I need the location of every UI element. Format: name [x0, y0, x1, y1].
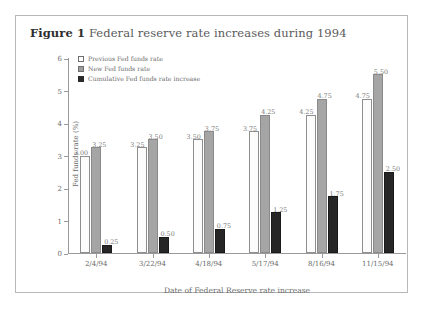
x-axis-tick-label: 5/17/94 — [252, 260, 279, 268]
bar-new-rate: 3.25 — [91, 147, 101, 253]
bar-previous-rate: 3.75 — [249, 131, 259, 253]
bar-group: 3.003.250.25 — [80, 58, 112, 253]
bar-value-label: 3.50 — [149, 133, 163, 141]
x-axis-tick-label: 3/22/94 — [139, 260, 166, 268]
y-axis-tick-label: 0 — [58, 250, 62, 258]
x-axis-tick-label: 8/16/94 — [308, 260, 335, 268]
bar-previous-rate: 3.50 — [193, 139, 203, 253]
y-axis-tick — [64, 156, 68, 157]
y-axis-tick-label: 5 — [58, 88, 62, 96]
figure-label: Figure 1 — [30, 26, 85, 40]
bar-cumulative-increase: 1.75 — [328, 196, 338, 253]
x-axis-tick-label: 2/4/94 — [85, 260, 108, 268]
bar-previous-rate: 4.75 — [362, 99, 372, 253]
bar-value-label: 3.00 — [74, 149, 88, 157]
bar-group: 3.503.750.75 — [193, 58, 225, 253]
bar-value-label: 3.25 — [130, 141, 144, 149]
x-axis-tick — [322, 254, 323, 258]
bar-cumulative-increase: 1.25 — [271, 212, 281, 253]
bar-new-rate: 3.75 — [204, 131, 214, 253]
x-axis-tick-label: 4/18/94 — [195, 260, 222, 268]
y-axis-tick-label: 6 — [58, 55, 62, 63]
bar-value-label: 2.50 — [386, 165, 400, 173]
bar-previous-rate: 3.00 — [80, 156, 90, 254]
x-axis-tick-labels: 2/4/943/22/944/18/945/17/948/16/9411/15/… — [68, 260, 406, 272]
y-axis-tick — [64, 189, 68, 190]
bar-cumulative-increase: 0.50 — [159, 237, 169, 253]
x-axis-tick — [378, 254, 379, 258]
bar-value-label: 0.50 — [161, 230, 175, 238]
figure-caption: Figure 1 Federal reserve rate increases … — [30, 26, 347, 40]
bar-value-label: 4.25 — [261, 108, 275, 116]
bar-previous-rate: 3.25 — [137, 147, 147, 253]
x-axis-tick — [265, 254, 266, 258]
x-axis-line — [68, 253, 406, 254]
bar-value-label: 3.75 — [205, 125, 219, 133]
bar-cumulative-increase: 2.50 — [384, 172, 394, 253]
x-axis-tick-label: 11/15/94 — [362, 260, 393, 268]
bar-value-label: 1.25 — [273, 206, 287, 214]
bar-new-rate: 3.50 — [148, 139, 158, 253]
y-axis-tick-label: 4 — [58, 120, 62, 128]
bar-value-label: 1.75 — [330, 190, 344, 198]
bar-value-label: 0.75 — [217, 222, 231, 230]
bar-value-label: 3.25 — [92, 141, 106, 149]
y-axis-tick — [64, 124, 68, 125]
y-axis-line — [68, 58, 69, 254]
bar-previous-rate: 4.25 — [306, 115, 316, 253]
plot-area: 0123456 3.003.250.253.253.500.503.503.75… — [68, 58, 406, 254]
bar-group: 3.754.251.25 — [249, 58, 281, 253]
bar-group: 4.755.502.50 — [362, 58, 394, 253]
y-axis-tick — [64, 221, 68, 222]
bar-value-label: 4.75 — [356, 92, 370, 100]
bar-new-rate: 5.50 — [373, 74, 383, 253]
bar-new-rate: 4.75 — [317, 99, 327, 253]
bar-value-label: 5.50 — [374, 68, 388, 76]
figure-title: Federal reserve rate increases during 19… — [89, 26, 347, 40]
y-axis-tick-label: 1 — [58, 218, 62, 226]
y-axis-tick — [64, 254, 68, 255]
x-axis-tick — [96, 254, 97, 258]
bar-cumulative-increase: 0.75 — [215, 229, 225, 253]
y-axis-tick-label: 2 — [58, 185, 62, 193]
x-axis-tick — [153, 254, 154, 258]
bar-value-label: 0.25 — [104, 238, 118, 246]
x-axis-title: Date of Federal Reserve rate increase — [68, 286, 406, 295]
bar-value-label: 4.25 — [299, 108, 313, 116]
y-axis-tick-label: 3 — [58, 153, 62, 161]
bar-group: 4.254.751.75 — [306, 58, 338, 253]
bar-value-label: 4.75 — [318, 92, 332, 100]
bar-value-label: 3.75 — [243, 125, 257, 133]
y-axis-tick — [64, 59, 68, 60]
x-axis-tick — [209, 254, 210, 258]
bar-value-label: 3.50 — [187, 133, 201, 141]
bar-group: 3.253.500.50 — [137, 58, 169, 253]
figure-frame: Figure 1 Federal reserve rate increases … — [15, 15, 408, 293]
y-axis-tick — [64, 91, 68, 92]
bar-cumulative-increase: 0.25 — [102, 245, 112, 253]
bar-new-rate: 4.25 — [260, 115, 270, 253]
